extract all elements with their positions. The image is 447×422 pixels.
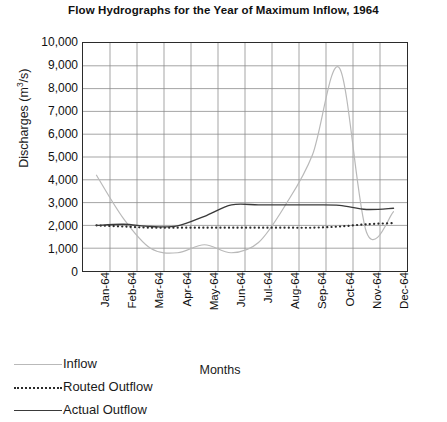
x-axis-tick-label: Dec-64 (399, 272, 411, 342)
routed-outflow-line-key (14, 381, 62, 393)
plot-area (82, 42, 408, 272)
legend-item-label: Routed Outflow (62, 379, 153, 394)
flow-hydrograph-chart: Flow Hydrographs for the Year of Maximum… (0, 0, 447, 422)
x-axis-tick-label: Sep-64 (317, 272, 329, 342)
legend-item-label: Inflow (62, 356, 97, 371)
y-axis-tick-label: 0 (4, 266, 78, 278)
x-axis-tick-label: Apr-64 (182, 272, 194, 342)
x-axis-tick-label: Jan-64 (100, 272, 112, 342)
x-axis-tick-label: Nov-64 (372, 272, 384, 342)
y-axis-tick-label: 4,000 (4, 174, 78, 186)
y-axis-tick-label: 6,000 (4, 128, 78, 140)
y-axis-tick-label: 8,000 (4, 82, 78, 94)
y-axis-tick-label: 3,000 (4, 197, 78, 209)
actual-outflow-line-key (14, 404, 62, 416)
x-axis-tick-label: May-64 (209, 272, 221, 342)
legend-item: Routed Outflow (14, 375, 244, 398)
legend-item: Inflow (14, 352, 244, 375)
chart-legend: InflowRouted OutflowActual Outflow (14, 352, 244, 421)
legend-item-label: Actual Outflow (62, 402, 147, 417)
x-axis-tick-label: Aug-64 (290, 272, 302, 342)
y-axis-tick-label: 5,000 (4, 151, 78, 163)
y-axis-tick-label: 7,000 (4, 105, 78, 117)
legend-line-swatch (14, 410, 62, 411)
inflow-line-key (14, 358, 62, 370)
x-axis-tick-label: Jul-64 (263, 272, 275, 342)
y-axis-tick-label: 9,000 (4, 59, 78, 71)
legend-item: Actual Outflow (14, 398, 244, 421)
plot-svg (83, 43, 407, 271)
gridlines (83, 43, 407, 271)
y-axis-tick-label: 2,000 (4, 220, 78, 232)
legend-line-swatch (14, 387, 62, 389)
y-axis-tick-label: 10,000 (4, 36, 78, 48)
legend-line-swatch (14, 364, 62, 365)
x-axis-tick-label: Jun-64 (236, 272, 248, 342)
x-axis-tick-labels: Jan-64Feb-64Mar-64Apr-64May-64Jun-64Jul-… (82, 274, 408, 344)
x-axis-tick-label: Oct-64 (345, 272, 357, 342)
x-axis-tick-label: Feb-64 (127, 272, 139, 342)
x-axis-tick-label: Mar-64 (154, 272, 166, 342)
y-axis-tick-label: 1,000 (4, 243, 78, 255)
